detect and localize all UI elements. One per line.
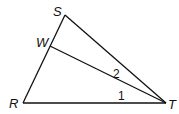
segment-st [65, 15, 166, 103]
segment-rs [23, 15, 65, 103]
label-r: R [9, 96, 18, 111]
segment-wt [50, 46, 166, 103]
angle-label-2: 2 [113, 67, 120, 81]
label-s: S [53, 4, 62, 19]
label-t: T [168, 97, 177, 112]
triangle-diagram: S W R T 2 1 [0, 0, 179, 114]
angle-label-1: 1 [118, 89, 125, 103]
label-w: W [36, 35, 50, 50]
